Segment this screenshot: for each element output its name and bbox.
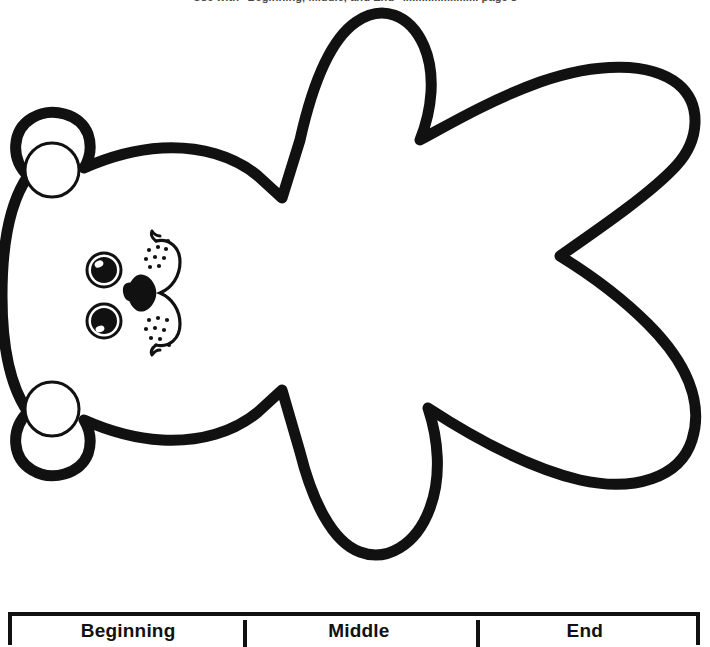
- table-divider-2: [476, 620, 480, 647]
- eye-bottom: [87, 304, 121, 338]
- table-divider-1: [243, 620, 247, 647]
- ear-bottom: [25, 382, 79, 436]
- table-cell-end[interactable]: End: [474, 616, 696, 645]
- eye-top: [87, 253, 121, 287]
- ear-top: [25, 143, 79, 197]
- table-cell-beginning[interactable]: Beginning: [12, 616, 244, 645]
- bear-template-artwork: [0, 0, 710, 600]
- table-header-beginning: Beginning: [81, 620, 176, 642]
- table-header-middle: Middle: [328, 620, 389, 642]
- beginning-middle-end-table: Beginning Middle End: [8, 612, 700, 645]
- table-cell-middle[interactable]: Middle: [244, 616, 473, 645]
- table-header-end: End: [567, 620, 604, 642]
